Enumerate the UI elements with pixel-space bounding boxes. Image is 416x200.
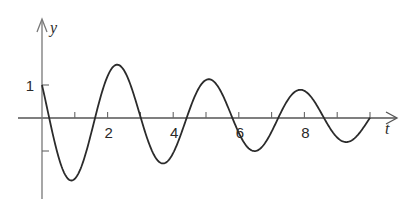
- y-axis-label: y: [48, 19, 58, 37]
- x-ticks: [75, 112, 370, 118]
- series-line-y-of-t: [42, 65, 370, 181]
- x-tick-label: 8: [301, 124, 309, 141]
- x-tick-labels: 2468: [104, 124, 309, 141]
- y-tick-labels: 1: [26, 77, 34, 94]
- x-axis-label: t: [385, 120, 390, 137]
- y-tick-label: 1: [26, 77, 34, 94]
- x-tick-label: 4: [170, 124, 178, 141]
- damped-oscillation-chart: 2468 1 y t: [0, 0, 416, 200]
- x-tick-label: 2: [104, 124, 112, 141]
